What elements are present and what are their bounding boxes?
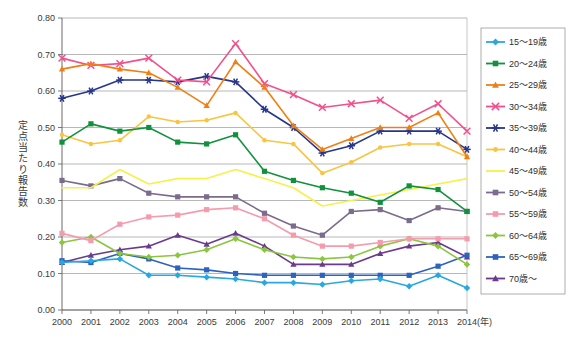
y-tick-label: 0.40 [37,159,55,169]
marker-circle [262,138,266,142]
marker-circle [204,118,208,122]
legend-item-label: 40～44歳 [509,144,547,155]
marker-square [59,178,64,183]
marker-square [435,187,440,192]
x-tick-label: 2013 [428,317,448,327]
x-tick-label: 2004 [168,317,188,327]
legend-item-label: 65～69歳 [509,251,547,262]
marker-square [407,183,412,188]
x-tick-label: 2009 [312,317,332,327]
marker-square [320,185,325,190]
y-tick-label: 0.80 [37,13,55,23]
marker-square [262,216,267,221]
marker-square [175,140,180,145]
marker-square [435,205,440,210]
marker-square [204,207,209,212]
marker-square [291,273,296,278]
marker-square [204,141,209,146]
marker-square [233,194,238,199]
marker-square [349,273,354,278]
marker-circle [147,114,151,118]
x-tick-label: 2008 [283,317,303,327]
marker-square [117,129,122,134]
marker-square [407,218,412,223]
y-tick-label: 0.00 [37,305,55,315]
x-tick-label: 2005 [197,317,217,327]
chart-canvas: 0.000.100.200.300.400.500.600.700.80定点当た… [0,0,572,346]
marker-square [175,265,180,270]
marker-square [204,194,209,199]
marker-circle [407,142,411,146]
marker-circle [378,145,382,149]
marker-square [204,267,209,272]
marker-circle [349,160,353,164]
legend-item-label: 25～29歳 [509,79,547,90]
legend: 15～19歳20～24歳25～29歳30～34歳35～39歳40～44歳45～4… [481,28,565,294]
marker-square [378,240,383,245]
legend-item-label: 15～19歳 [509,36,547,47]
legend-item-label: 70歳～ [509,273,537,284]
legend-item-label: 45～49歳 [509,165,547,176]
legend-item-label: 20～24歳 [509,58,547,69]
marker-square [291,223,296,228]
line-chart: 0.000.100.200.300.400.500.600.700.80定点当た… [0,0,572,346]
marker-square [349,209,354,214]
marker-square [464,253,469,258]
marker-circle [89,142,93,146]
marker-square [407,236,412,241]
y-tick-label: 0.50 [37,123,55,133]
marker-square [233,271,238,276]
marker-square [88,121,93,126]
marker-square [233,132,238,137]
y-tick-label: 0.60 [37,86,55,96]
marker-circle [176,120,180,124]
marker-square [146,214,151,219]
marker-square [291,178,296,183]
y-axis-title: 定点当たり報告数 [17,119,28,208]
marker-circle [291,142,295,146]
marker-circle [233,111,237,115]
legend-item-label: 60～64歳 [509,230,547,241]
marker-square [175,194,180,199]
legend-item-label: 35～39歳 [509,122,547,133]
x-tick-label: 2012 [399,317,419,327]
marker-square [349,244,354,249]
marker-square [262,211,267,216]
marker-square [146,191,151,196]
marker-square [117,176,122,181]
x-tick-label: 2001 [81,317,101,327]
marker-circle [493,147,498,152]
x-axis: 2000200120022003200420052006200720082009… [52,310,477,327]
y-tick-label: 0.20 [37,232,55,242]
marker-circle [60,133,64,137]
marker-square [233,205,238,210]
marker-square [349,191,354,196]
x-tick-label: 2002 [110,317,130,327]
marker-square [407,273,412,278]
x-tick-label: 2003 [139,317,159,327]
marker-square [464,236,469,241]
x-tick-label: 2007 [254,317,274,327]
y-tick-label: 0.70 [37,50,55,60]
marker-square [435,236,440,241]
marker-square [262,273,267,278]
marker-square [262,169,267,174]
marker-square [291,233,296,238]
x-tick-label: 2014 [457,317,477,327]
x-axis-unit-label: (年) [477,316,492,327]
marker-square [146,125,151,130]
legend-item-label: 30～34歳 [509,101,547,112]
marker-square [493,61,499,67]
marker-square [59,231,64,236]
marker-square [88,238,93,243]
marker-square [378,207,383,212]
y-axis: 0.000.100.200.300.400.500.600.700.80 [37,13,62,315]
marker-circle [118,138,122,142]
legend-item-label: 50～54歳 [509,187,547,198]
x-tick-label: 2000 [52,317,72,327]
x-tick-label: 2010 [341,317,361,327]
marker-square [320,244,325,249]
marker-circle [320,171,324,175]
marker-square [378,200,383,205]
marker-square [117,222,122,227]
